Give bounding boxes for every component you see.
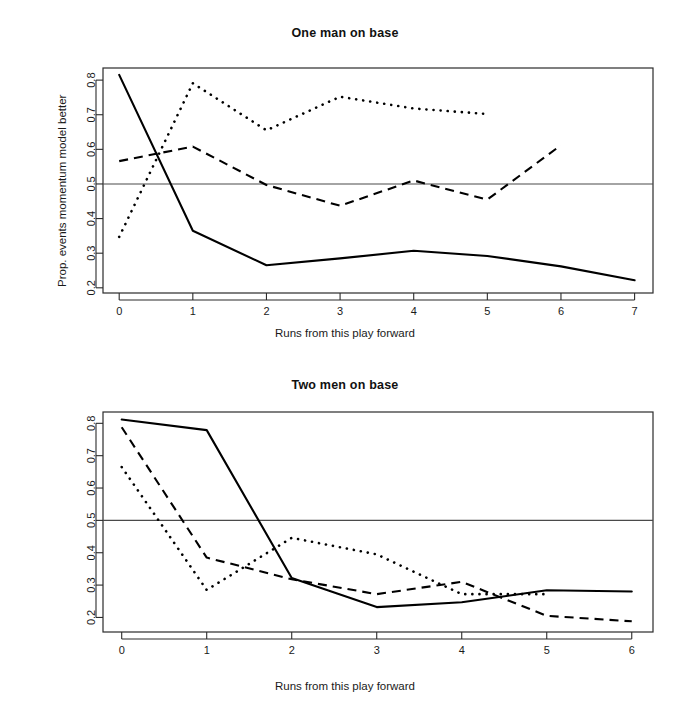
x-tick-label: 1 [204,644,210,656]
x-tick-label: 7 [632,305,638,317]
plot-area-one-man-on-base: 0.20.30.40.50.60.70.801234567 [0,0,690,355]
y-tick-label: 0.5 [85,176,97,191]
y-tick-label: 0.6 [85,480,97,495]
plot-area-two-men-on-base: 0.20.30.40.50.60.70.80123456 [0,355,690,709]
y-tick-label: 0.2 [85,280,97,295]
x-tick-label: 3 [337,305,343,317]
x-tick-label: 2 [289,644,295,656]
figure-root: One man on base Prop. events momentum mo… [0,0,690,709]
series-line-dotted [122,467,547,594]
x-tick-label: 5 [484,305,490,317]
y-tick-label: 0.7 [85,107,97,122]
plot-box [103,412,653,632]
y-tick-label: 0.8 [85,72,97,87]
y-tick-label: 0.8 [85,416,97,431]
y-tick-label: 0.2 [85,610,97,625]
x-tick-label: 6 [558,305,564,317]
series-line-dotted [119,83,487,237]
y-tick-label: 0.5 [85,513,97,528]
y-tick-label: 0.3 [85,577,97,592]
x-tick-label: 6 [629,644,635,656]
y-tick-label: 0.4 [85,545,97,560]
series-line-dashed [122,427,632,621]
x-axis-label: Runs from this play forward [0,327,690,339]
x-tick-label: 4 [411,305,417,317]
chart-panel-two-men-on-base: Two men on base Prop. events momentum mo… [0,355,690,709]
x-tick-label: 0 [116,305,122,317]
y-tick-label: 0.3 [85,246,97,261]
x-tick-label: 2 [263,305,269,317]
series-line-solid [119,75,634,280]
chart-panel-one-man-on-base: One man on base Prop. events momentum mo… [0,0,690,355]
x-tick-label: 4 [459,644,465,656]
x-tick-label: 1 [190,305,196,317]
y-tick-label: 0.4 [85,211,97,226]
series-line-dashed [119,145,561,206]
y-tick-label: 0.7 [85,448,97,463]
x-tick-label: 3 [374,644,380,656]
y-tick-label: 0.6 [85,142,97,157]
x-tick-label: 5 [544,644,550,656]
x-axis-label: Runs from this play forward [0,680,690,692]
x-tick-label: 0 [119,644,125,656]
